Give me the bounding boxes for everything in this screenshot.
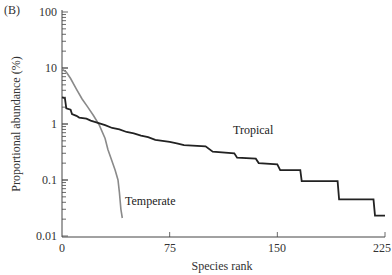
x-tick-label-225: 225 <box>373 241 391 255</box>
x-ticks <box>170 232 385 237</box>
y-axis-title: Proportional abundance (%) <box>9 56 23 191</box>
y-tick-label-1: 1 <box>51 117 57 131</box>
y-ticks <box>62 12 68 236</box>
abundance-chart: (B) 100 10 1 0.1 0.01 0 75 150 225 Speci… <box>0 0 392 275</box>
y-tick-label-0.01: 0.01 <box>36 229 57 243</box>
x-tick-label-75: 75 <box>164 241 176 255</box>
x-tick-label-150: 150 <box>268 241 286 255</box>
y-tick-label-100: 100 <box>39 5 57 19</box>
y-tick-label-0.1: 0.1 <box>42 173 57 187</box>
temperate-series-line <box>62 69 122 218</box>
panel-label: (B) <box>4 3 20 17</box>
tropical-label: Tropical <box>233 123 274 137</box>
temperate-label: Temperate <box>125 194 175 208</box>
x-axis-title: Species rank <box>192 259 253 273</box>
y-tick-label-10: 10 <box>45 61 57 75</box>
x-tick-label-0: 0 <box>59 241 65 255</box>
